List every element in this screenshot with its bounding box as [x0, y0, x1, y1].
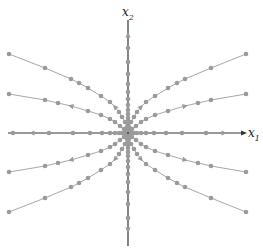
- trajectory-point: [113, 142, 118, 147]
- trajectory-point: [118, 124, 123, 129]
- x2-axis-point: [126, 103, 131, 108]
- x1-axis-arrowhead-icon: [241, 131, 247, 136]
- direction-arrow-icon: [67, 103, 74, 109]
- trajectory-point: [99, 113, 104, 118]
- x2-axis-point: [126, 154, 131, 159]
- trajectory-point: [86, 109, 91, 114]
- trajectory-point: [134, 138, 139, 143]
- x1-axis-point: [71, 131, 76, 136]
- trajectory-point: [166, 109, 171, 114]
- trajectory-point: [86, 86, 91, 91]
- x2-axis-point: [126, 60, 131, 65]
- trajectory-point: [108, 162, 113, 167]
- x2-axis-point: [126, 190, 131, 195]
- x1-axis-point: [88, 131, 93, 136]
- x1-axis-point: [113, 131, 118, 136]
- x1-axis-point: [11, 131, 16, 136]
- x2-axis-point: [126, 165, 131, 170]
- direction-arrow-icon: [125, 32, 130, 38]
- x2-axis-point: [126, 116, 131, 121]
- trajectory-point: [77, 81, 82, 86]
- x2-axis-point: [126, 46, 131, 51]
- direction-arrow-icon: [67, 157, 74, 163]
- x1-axis-point: [204, 131, 209, 136]
- x1-axis-point: [164, 131, 169, 136]
- trajectory-point: [166, 153, 171, 158]
- trajectory-point: [43, 164, 48, 169]
- trajectory-point: [130, 127, 135, 132]
- x2-axis-point: [126, 172, 131, 177]
- trajectory-point: [144, 117, 149, 122]
- x2-axis-point: [126, 146, 131, 151]
- x1-axis-point: [117, 131, 122, 136]
- trajectory-point: [69, 77, 74, 82]
- x1-axis-point: [135, 131, 140, 136]
- x1-axis-point: [47, 131, 52, 136]
- x2-axis-point: [126, 159, 131, 164]
- trajectory-point: [166, 86, 171, 91]
- trajectory-point: [7, 92, 12, 97]
- trajectory-point: [139, 120, 144, 125]
- trajectory-point: [196, 161, 201, 166]
- x1-axis-point: [180, 131, 185, 136]
- trajectory-point: [209, 164, 214, 169]
- trajectory-point: [108, 145, 113, 150]
- trajectory-point: [144, 100, 149, 105]
- trajectory-point: [99, 94, 104, 99]
- trajectory-point: [129, 120, 134, 125]
- x2-axis-point: [126, 72, 131, 77]
- x2-axis-point: [126, 180, 131, 185]
- x1-axis-label: x1: [248, 126, 260, 143]
- trajectory-point: [7, 52, 12, 57]
- direction-arrow-icon: [182, 157, 189, 163]
- trajectory-point: [132, 147, 137, 152]
- trajectory-point: [120, 147, 125, 152]
- x2-axis-point: [126, 216, 131, 221]
- trajectory-point: [99, 149, 104, 154]
- trajectory-point: [153, 168, 158, 173]
- x2-axis-point: [126, 112, 131, 117]
- trajectory-point: [99, 168, 104, 173]
- trajectory-point: [120, 115, 125, 120]
- trajectory-point: [86, 176, 91, 181]
- trajectory-point: [129, 142, 134, 147]
- trajectory-point: [166, 176, 171, 181]
- trajectory-point: [122, 135, 127, 140]
- trajectory-point: [117, 152, 122, 157]
- x1-axis-point: [152, 131, 157, 136]
- direction-arrow-icon: [222, 130, 228, 135]
- trajectory-point: [175, 181, 180, 186]
- trajectory-point: [118, 138, 123, 143]
- trajectory-point: [43, 66, 48, 71]
- trajectory-point: [244, 210, 249, 215]
- trajectory-point: [209, 66, 214, 71]
- trajectory-point: [244, 170, 249, 175]
- trajectory-point: [209, 196, 214, 201]
- trajectory-point: [134, 124, 139, 129]
- trajectory-point: [69, 185, 74, 190]
- trajectory-point: [153, 113, 158, 118]
- trajectory-point: [209, 98, 214, 103]
- trajectory-point: [43, 196, 48, 201]
- trajectory-point: [183, 77, 188, 82]
- trajectory-point: [117, 110, 122, 115]
- trajectory-point: [56, 161, 61, 166]
- x1-axis-point: [139, 131, 144, 136]
- trajectory-point: [244, 52, 249, 57]
- trajectory-point: [153, 149, 158, 154]
- x1-axis-point: [144, 131, 149, 136]
- trajectory-point: [86, 153, 91, 158]
- trajectory-point: [175, 81, 180, 86]
- trajectory-point: [130, 135, 135, 140]
- trajectory-point: [43, 98, 48, 103]
- x2-axis-point: [126, 108, 131, 113]
- trajectory-point: [77, 181, 82, 186]
- trajectory-point: [139, 142, 144, 147]
- x2-axis-point: [126, 97, 131, 102]
- trajectory-point: [7, 170, 12, 175]
- x2-axis-label: x2: [122, 5, 134, 22]
- trajectory-point: [132, 115, 137, 120]
- trajectory-point: [183, 185, 188, 190]
- trajectory-point: [135, 110, 140, 115]
- trajectory-point: [144, 145, 149, 150]
